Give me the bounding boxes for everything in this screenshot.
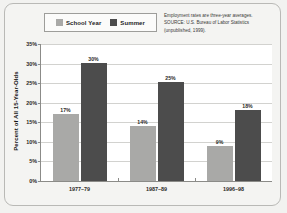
source-note-line: Employment rates are three-year averages… xyxy=(164,12,280,19)
source-note-line: (unpublished, 1999). xyxy=(164,27,280,34)
bar-column: 17% xyxy=(53,114,79,181)
bar-value-label: 14% xyxy=(130,119,156,125)
bar-pair: 14%25% xyxy=(118,44,195,181)
bar-groups: 17%30%1977–7914%25%1987–899%18%1996–98 xyxy=(41,44,272,181)
bar[interactable] xyxy=(130,126,156,181)
x-tick-label: 1987–89 xyxy=(118,186,195,192)
bar-column: 14% xyxy=(130,126,156,181)
y-tick-label: 15% xyxy=(26,119,37,125)
bar[interactable] xyxy=(235,110,261,181)
y-tick-mark xyxy=(38,181,41,182)
legend-swatch-icon xyxy=(110,19,117,26)
y-tick-label: 5% xyxy=(29,158,37,164)
plot-area: 0%5%10%15%20%25%30%35% 17%30%1977–7914%2… xyxy=(40,44,272,182)
bar-group: 14%25%1987–89 xyxy=(118,44,195,181)
bar-column: 18% xyxy=(235,110,261,181)
x-tick-label: 1996–98 xyxy=(195,186,272,192)
bar-pair: 9%18% xyxy=(195,44,272,181)
y-tick-label: 20% xyxy=(26,100,37,106)
bar-value-label: 25% xyxy=(158,75,184,81)
bar-value-label: 18% xyxy=(235,103,261,109)
bar-column: 25% xyxy=(158,82,184,181)
bar-column: 30% xyxy=(81,63,107,181)
bar[interactable] xyxy=(53,114,79,181)
y-tick-label: 35% xyxy=(26,41,37,47)
chart-legend: School YearSummer xyxy=(44,13,157,32)
source-note-line: SOURCE: U.S. Bureau of Labor Statistics xyxy=(164,19,280,26)
y-tick-label: 0% xyxy=(29,178,37,184)
legend-item: School Year xyxy=(56,19,101,26)
y-tick-label: 10% xyxy=(26,139,37,145)
y-tick-label: 30% xyxy=(26,61,37,67)
legend-label: Summer xyxy=(120,20,145,26)
bar[interactable] xyxy=(81,63,107,181)
bar[interactable] xyxy=(158,82,184,181)
bar-group: 9%18%1996–98 xyxy=(195,44,272,181)
legend-item: Summer xyxy=(110,19,145,26)
bar[interactable] xyxy=(207,146,233,181)
bar-column: 9% xyxy=(207,146,233,181)
legend-label: School Year xyxy=(66,20,101,26)
y-axis-title: Percent of All 15-Year-Olds xyxy=(13,51,19,171)
source-note: Employment rates are three-year averages… xyxy=(164,12,280,34)
bar-value-label: 9% xyxy=(207,139,233,145)
x-tick-label: 1977–79 xyxy=(41,186,118,192)
bar-value-label: 30% xyxy=(81,56,107,62)
x-tick-mark xyxy=(118,178,119,181)
bar-pair: 17%30% xyxy=(41,44,118,181)
x-tick-mark xyxy=(195,178,196,181)
chart-figure: School YearSummer Employment rates are t… xyxy=(0,0,287,213)
bar-group: 17%30%1977–79 xyxy=(41,44,118,181)
bar-value-label: 17% xyxy=(53,107,79,113)
legend-swatch-icon xyxy=(56,19,63,26)
y-tick-label: 25% xyxy=(26,80,37,86)
